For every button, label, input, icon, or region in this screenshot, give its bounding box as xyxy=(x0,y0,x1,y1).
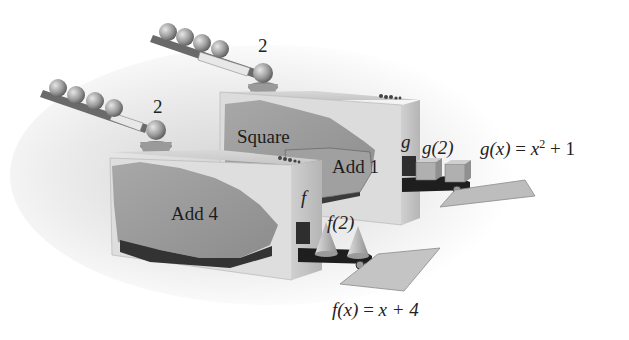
formula-f-lhs: f(x) xyxy=(332,299,358,320)
formula-g-rest: + 1 xyxy=(550,138,575,159)
machine-f-formula: f(x) = x + 4 xyxy=(332,300,419,319)
machine-g-formula: g(x) = x2 + 1 xyxy=(480,138,575,158)
formula-g-eq: = xyxy=(515,138,526,159)
formula-g-exponent: 2 xyxy=(539,137,545,151)
stage-add4-label: Add 4 xyxy=(171,204,218,223)
stage-square-label: Square xyxy=(237,127,290,146)
function-machines-diagram: 2 2 Square Add 1 Add 4 g f g(2) f(2) g(x… xyxy=(0,0,629,340)
formula-g-lhs: g(x) xyxy=(480,138,511,159)
formula-f-rhs: x + 4 xyxy=(379,299,419,320)
machine-f-output-label: f(2) xyxy=(327,213,354,232)
machine-g-output-label: g(2) xyxy=(422,138,454,157)
diagram-artwork xyxy=(0,0,629,340)
stage-add1-label: Add 1 xyxy=(332,157,379,176)
machine-f-input-value: 2 xyxy=(153,97,163,116)
machine-f-side-label: f xyxy=(301,188,306,207)
machine-g-input-value: 2 xyxy=(258,36,268,55)
formula-f-eq: = xyxy=(363,299,374,320)
formula-g-base: x xyxy=(531,138,539,159)
machine-g-side-label: g xyxy=(401,132,411,151)
